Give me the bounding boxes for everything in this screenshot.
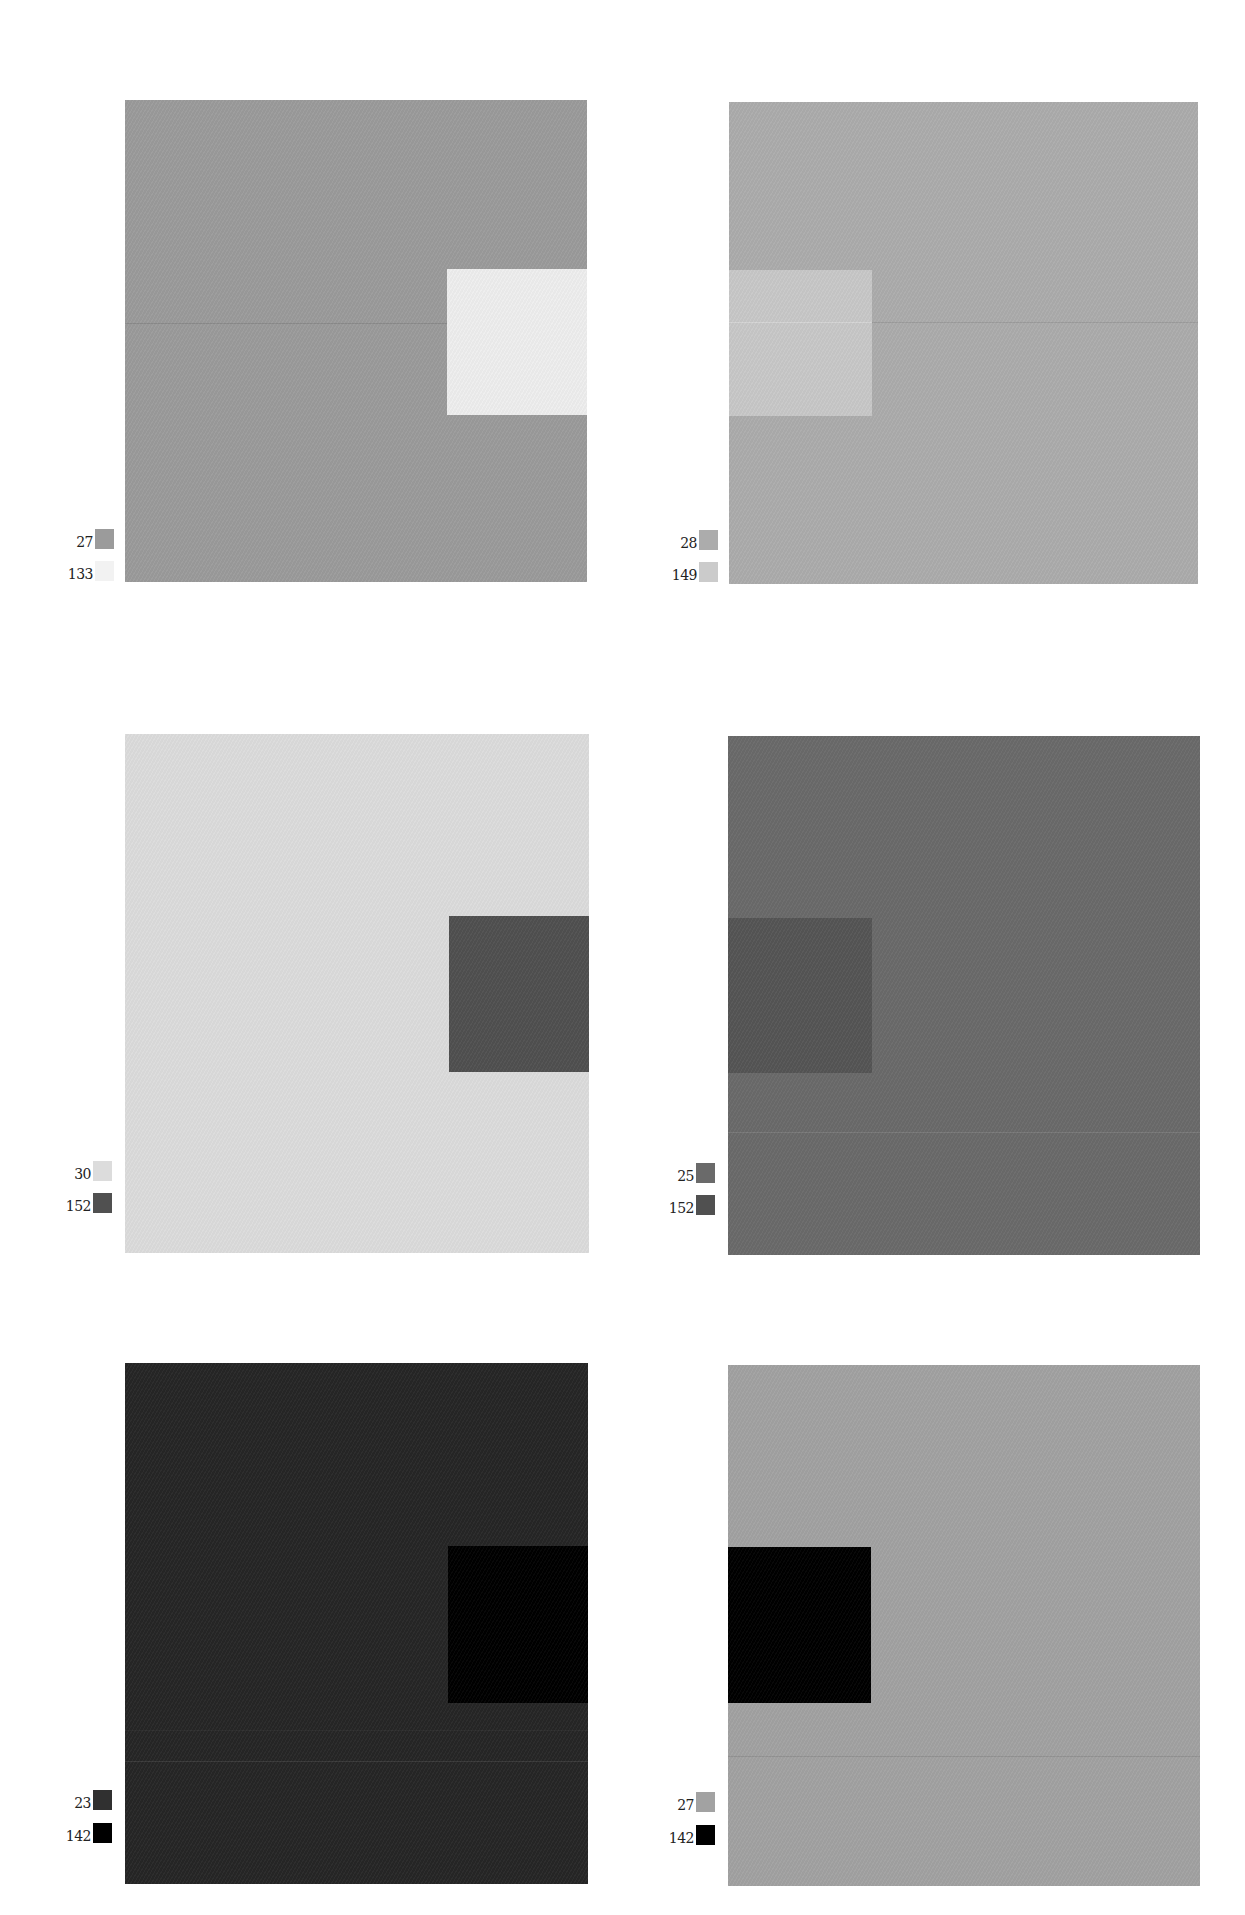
inset-square [449,916,589,1072]
color-swatch [696,1792,715,1812]
color-field-panel [729,102,1198,584]
color-swatch [93,1193,112,1213]
inset-seam-line [729,322,872,323]
inset-square [729,270,872,416]
legend-label: 152 [66,1199,91,1213]
legend-label: 149 [672,568,697,582]
inset-square [728,1547,871,1703]
color-field-panel [728,1365,1200,1886]
legend-entry-inset: 142 [669,1825,715,1845]
legend-entry-background: 30 [74,1161,112,1181]
color-field-panel [125,734,589,1253]
legend-entry-inset: 152 [66,1193,112,1213]
seam-line [728,1756,1200,1757]
color-legend: 27 133 [54,529,114,583]
legend-label: 27 [76,535,93,549]
legend-label: 28 [680,536,697,550]
color-field-panel [125,100,587,582]
color-swatch [95,561,114,581]
legend-label: 27 [677,1798,694,1812]
color-swatch [699,530,718,550]
color-legend: 23 142 [52,1790,112,1844]
legend-entry-background: 25 [677,1163,715,1183]
legend-label: 152 [669,1201,694,1215]
color-legend: 28 149 [658,530,718,584]
color-swatch [696,1163,715,1183]
color-legend: 25 152 [655,1163,715,1217]
legend-entry-inset: 142 [66,1823,112,1843]
color-swatch [93,1823,112,1843]
legend-label: 142 [66,1829,91,1843]
legend-label: 25 [677,1169,694,1183]
color-swatch [93,1161,112,1181]
legend-entry-inset: 152 [669,1195,715,1215]
color-swatch [696,1825,715,1845]
seam-line [728,1132,1200,1133]
color-swatch [696,1195,715,1215]
color-legend: 27 142 [655,1792,715,1846]
legend-entry-inset: 133 [68,561,114,581]
seam-line-faint [125,1730,588,1731]
legend-label: 133 [68,567,93,581]
inset-square [448,1546,588,1703]
legend-entry-background: 23 [74,1790,112,1810]
legend-entry-inset: 149 [672,562,718,582]
color-field-panel [728,736,1200,1255]
color-legend: 30 152 [52,1161,112,1215]
legend-label: 142 [669,1831,694,1845]
legend-entry-background: 27 [76,529,114,549]
legend-entry-background: 27 [677,1792,715,1812]
color-swatch [95,529,114,549]
color-field-panel [125,1363,588,1884]
color-swatch [93,1790,112,1810]
seam-line [125,1761,588,1762]
inset-square [728,918,872,1073]
legend-entry-background: 28 [680,530,718,550]
legend-label: 23 [74,1796,91,1810]
color-swatch [699,562,718,582]
legend-label: 30 [74,1167,91,1181]
inset-square [447,269,587,415]
